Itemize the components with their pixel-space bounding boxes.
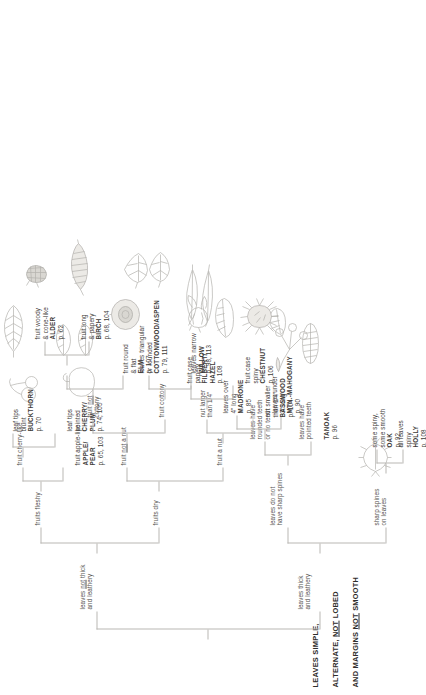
connector-to-cottony [164, 419, 165, 433]
terminal-buckthorn: leaf tips blunt BUCKTHORN p. 70 [4, 351, 41, 431]
connector-notcottony-stem [92, 389, 93, 399]
not-underline: not [78, 579, 85, 588]
connector-to-no-spines [287, 527, 288, 543]
branch-label-thick-leathery: leaves thick and leathery [296, 539, 311, 609]
branch-label-fruit-a-nut: fruit a nut [215, 405, 222, 465]
connector-cherrylike-split [12, 446, 54, 447]
terminal-birch-page: p. 68, 104 [102, 310, 109, 339]
connector-to-willow [190, 375, 191, 389]
terminal-willow-name: WILLOW [197, 346, 204, 373]
connector-nutlarger-stem [206, 399, 207, 409]
terminal-alder-name: ALDER [48, 316, 55, 339]
connector-root-to-not-thick [96, 611, 97, 629]
connector-fleshy-split [22, 480, 62, 481]
terminal-madrone-desc: leaves over 4" long [221, 380, 235, 413]
terminal-buckthorn-name: BUCKTHORN [26, 389, 33, 431]
connector-to-rounded-teeth [264, 441, 265, 455]
title-line-3-not: NOT [350, 613, 359, 629]
long-papery-birch-catkin-icon [66, 239, 92, 295]
branch-label-not-thick-leathery: leaves not thick and leathery [78, 539, 93, 609]
connector-to-birch [88, 341, 89, 355]
connector-to-cherry-like [22, 467, 23, 481]
connector-cherrylike-stem [22, 447, 23, 457]
terminal-cottonwood-aspen: leaves triangular or rounded COTTONWOOD/… [130, 289, 167, 373]
terminal-madrone-page: p. 85 [244, 398, 251, 413]
branch-label-fruits-dry: fruits dry [151, 465, 158, 525]
terminal-apple-pear-page: p. 65, 103 [96, 436, 103, 465]
connector-nut-stem [222, 433, 223, 443]
connector-cottony-split [148, 388, 190, 389]
terminal-apple-pear-name: APPLE/ PEAR [81, 441, 95, 465]
terminal-basswood-desc: nut smaller than 1/4" [263, 385, 277, 417]
terminal-holly-name: HOLLY [411, 425, 418, 447]
branch-label-fruits-fleshy: fruits fleshy [33, 465, 40, 525]
terminal-oak-page: p. 92 [393, 432, 400, 447]
terminal-cherry-plum-desc: leaf tips pointed [65, 408, 79, 431]
connector-cottony-stem [164, 389, 165, 399]
connector-spines-stem [385, 463, 386, 473]
connector-nospines-stem [287, 455, 288, 465]
terminal-oak: some spiny, some smooth OAK p. 92 [363, 367, 400, 447]
connector-to-oak [376, 449, 377, 463]
title-line-2-not: NOT [330, 620, 339, 636]
connector-to-nut-larger [206, 419, 207, 433]
terminal-basswood-name: BASSWOOD [278, 378, 285, 417]
terminal-buckthorn-desc: leaf tips blunt [11, 408, 25, 431]
terminal-filbert-page: p. 108 [215, 365, 222, 383]
connector-birchalder-stem [66, 355, 67, 365]
triangular-cottonwood-leaves-icon [122, 245, 170, 289]
terminal-oak-desc: some spiny, some smooth [370, 408, 384, 447]
connector-fleshy-stem [40, 481, 41, 491]
connector-to-pointed-teeth [310, 441, 311, 455]
connector-notthick-split [40, 542, 158, 543]
connector-nutlarger-split [190, 398, 232, 399]
connector-to-spines [385, 527, 386, 543]
connector-to-buckthorn [12, 433, 13, 447]
terminal-oak-name: OAK [385, 432, 392, 447]
connector-roundedteeth-stem [264, 429, 265, 439]
branch-label-fruit-not-a-nut: fruit not a nut [119, 405, 126, 465]
terminal-mtn-mahogany-page: p. 90 [293, 398, 300, 413]
terminal-basswood-page: p. 104 [286, 399, 293, 417]
spiny-chestnut-burr-icon [240, 297, 278, 335]
terminal-tanoak-name: TANOAK [322, 411, 329, 439]
terminal-alder-page: p. 62 [56, 324, 63, 339]
branch-label-no-sharp-spines: leaves do not have sharp spines [268, 445, 283, 525]
title-line-1: LEAVES SIMPLE, [310, 623, 319, 687]
connector-to-chestnut [232, 385, 233, 399]
title-line-2a: ALTERNATE, [330, 636, 339, 687]
title-line-2b: LOBED [330, 591, 339, 620]
connector-dry-split [126, 480, 222, 481]
terminal-birch-name: BIRCH [94, 318, 101, 339]
connector-notnut-split [92, 432, 164, 433]
terminal-chestnut-page: p. 106 [266, 365, 273, 383]
connector-to-alder [44, 341, 45, 355]
connector-thick-split [287, 542, 385, 543]
title-line-3a: AND MARGINS [350, 629, 359, 687]
connector-dry-stem [158, 481, 159, 491]
connector-to-madrone [236, 415, 237, 429]
terminal-cottonwood-page: p. 79, 111 [160, 345, 167, 373]
terminal-tanoak: TANOAK p. 96 [315, 363, 337, 439]
connector-notcottony-split [66, 388, 122, 389]
terminal-tanoak-page: p. 96 [330, 424, 337, 439]
terminal-buckthorn-page: p. 70 [34, 416, 41, 431]
terminal-alder-desc: fruit woody & cone-like [33, 307, 47, 339]
terminal-holly-page: p. 108 [419, 429, 426, 447]
veined-elliptic-leaf-icon [2, 299, 24, 357]
terminal-cottonwood-desc: leaves triangular or rounded [137, 325, 151, 373]
not-underline: not [85, 395, 92, 404]
connector-to-cherry-plum [54, 433, 55, 447]
connector-to-birch-alder [66, 375, 67, 389]
connector-to-fruits-dry [158, 527, 159, 543]
connector-root-stem [207, 629, 208, 639]
connector-notthick-stem [96, 543, 97, 553]
connector-to-basswood [252, 419, 253, 433]
woody-alder-cone-icon [22, 259, 50, 289]
connector-thick-stem [319, 543, 320, 553]
connector-to-not-a-nut [126, 467, 127, 481]
connector-to-not-cottony [92, 419, 93, 433]
connector-to-elm [122, 375, 123, 389]
title-line-3b: SMOOTH [350, 576, 359, 612]
